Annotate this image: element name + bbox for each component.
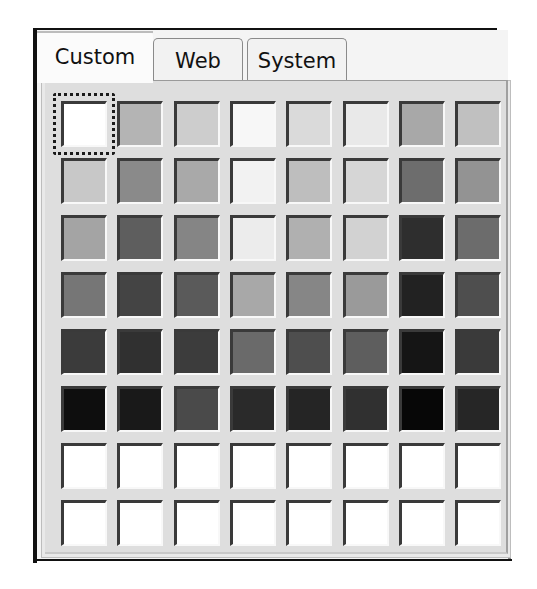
color-swatch[interactable]	[286, 158, 332, 204]
color-swatch[interactable]	[399, 272, 445, 318]
color-swatch[interactable]	[343, 272, 389, 318]
color-swatch[interactable]	[230, 329, 276, 375]
color-swatch[interactable]	[117, 500, 163, 546]
color-swatch[interactable]	[399, 101, 445, 147]
color-swatch[interactable]	[343, 101, 389, 147]
color-swatch[interactable]	[286, 386, 332, 432]
tab-web-label: Web	[175, 49, 221, 73]
color-swatch[interactable]	[230, 101, 276, 147]
color-swatch[interactable]	[343, 215, 389, 261]
color-swatch[interactable]	[174, 443, 220, 489]
color-swatch[interactable]	[61, 443, 107, 489]
swatch-grid	[45, 81, 506, 552]
color-swatch[interactable]	[174, 500, 220, 546]
color-swatch[interactable]	[455, 443, 501, 489]
color-swatch[interactable]	[174, 158, 220, 204]
color-swatch[interactable]	[174, 215, 220, 261]
color-swatch[interactable]	[61, 101, 107, 147]
color-swatch[interactable]	[117, 443, 163, 489]
color-swatch[interactable]	[399, 158, 445, 204]
color-swatch[interactable]	[230, 272, 276, 318]
tab-system[interactable]: System	[247, 38, 347, 82]
color-swatch[interactable]	[61, 272, 107, 318]
color-swatch[interactable]	[455, 158, 501, 204]
color-swatch[interactable]	[230, 443, 276, 489]
color-swatch[interactable]	[399, 386, 445, 432]
color-swatch[interactable]	[230, 215, 276, 261]
color-swatch[interactable]	[117, 158, 163, 204]
tab-system-label: System	[258, 49, 336, 73]
color-swatch[interactable]	[117, 272, 163, 318]
color-swatch[interactable]	[455, 215, 501, 261]
color-swatch[interactable]	[343, 500, 389, 546]
tab-web[interactable]: Web	[153, 38, 243, 82]
color-swatch[interactable]	[455, 101, 501, 147]
color-swatch[interactable]	[343, 386, 389, 432]
color-swatch[interactable]	[399, 329, 445, 375]
color-swatch[interactable]	[343, 443, 389, 489]
color-swatch[interactable]	[61, 158, 107, 204]
frame-bottom-border	[37, 559, 512, 561]
color-swatch[interactable]	[286, 443, 332, 489]
color-swatch[interactable]	[61, 500, 107, 546]
color-swatch[interactable]	[455, 329, 501, 375]
color-swatch[interactable]	[174, 101, 220, 147]
color-swatch[interactable]	[286, 329, 332, 375]
tab-custom-label: Custom	[55, 45, 135, 69]
color-swatch[interactable]	[343, 158, 389, 204]
color-swatch[interactable]	[455, 386, 501, 432]
color-swatch[interactable]	[174, 329, 220, 375]
color-swatch[interactable]	[117, 386, 163, 432]
color-swatch[interactable]	[61, 215, 107, 261]
color-swatch[interactable]	[174, 386, 220, 432]
color-swatch[interactable]	[399, 215, 445, 261]
color-swatch[interactable]	[399, 443, 445, 489]
frame-top-border	[33, 28, 497, 30]
color-swatch[interactable]	[117, 101, 163, 147]
color-swatch[interactable]	[61, 386, 107, 432]
color-swatch[interactable]	[230, 500, 276, 546]
color-swatch[interactable]	[61, 329, 107, 375]
color-swatch[interactable]	[286, 500, 332, 546]
color-swatch[interactable]	[117, 329, 163, 375]
color-swatch[interactable]	[455, 272, 501, 318]
custom-color-palette	[45, 80, 508, 554]
frame-left-border	[33, 28, 37, 563]
color-swatch[interactable]	[230, 158, 276, 204]
color-swatch[interactable]	[174, 272, 220, 318]
color-swatch[interactable]	[343, 329, 389, 375]
color-swatch[interactable]	[286, 101, 332, 147]
color-swatch[interactable]	[286, 272, 332, 318]
tab-custom[interactable]: Custom	[37, 31, 153, 83]
color-swatch[interactable]	[230, 386, 276, 432]
color-swatch[interactable]	[399, 500, 445, 546]
color-swatch[interactable]	[286, 215, 332, 261]
color-swatch[interactable]	[455, 500, 501, 546]
color-swatch[interactable]	[117, 215, 163, 261]
